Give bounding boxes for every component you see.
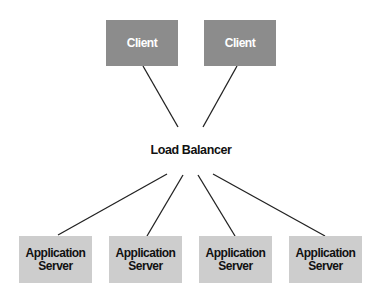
- client-node-1: Client: [106, 20, 178, 66]
- server-label-line2: Server: [38, 260, 72, 273]
- server-label-line1: Application: [116, 247, 176, 260]
- server-label-line2: Server: [128, 260, 162, 273]
- server-node-2: Application Server: [109, 236, 182, 283]
- server-node-4: Application Server: [289, 236, 362, 283]
- server-label-line1: Application: [296, 247, 356, 260]
- client-label: Client: [127, 36, 157, 50]
- server-label-line2: Server: [308, 260, 342, 273]
- load-balancer-label: Load Balancer: [150, 143, 232, 159]
- edge-lb-server2: [147, 175, 183, 236]
- server-node-1: Application Server: [19, 236, 92, 283]
- server-node-3: Application Server: [199, 236, 272, 283]
- edge-lb-server3: [198, 175, 235, 236]
- edge-lb-server1: [58, 174, 167, 235]
- server-label-line1: Application: [206, 247, 266, 260]
- server-label-line1: Application: [26, 247, 86, 260]
- edge-client2-lb: [203, 66, 237, 127]
- client-node-2: Client: [204, 20, 276, 66]
- client-label: Client: [225, 36, 255, 50]
- edge-client1-lb: [143, 66, 178, 127]
- server-label-line2: Server: [218, 260, 252, 273]
